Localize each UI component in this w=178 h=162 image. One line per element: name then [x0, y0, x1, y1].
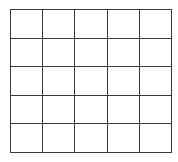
grid-cell [139, 123, 171, 152]
grid-cell [107, 123, 139, 152]
grid-cell [74, 9, 106, 38]
grid-cell [74, 66, 106, 95]
grid-cell [10, 66, 42, 95]
grid-cell [42, 38, 74, 67]
grid-cell [42, 9, 74, 38]
grid-cell [10, 95, 42, 124]
empty-grid [10, 9, 172, 153]
grid-cell [10, 38, 42, 67]
grid-cell [107, 66, 139, 95]
grid-cell [10, 123, 42, 152]
grid-cell [74, 95, 106, 124]
grid-cell [42, 123, 74, 152]
grid-cell [139, 95, 171, 124]
grid-cell [139, 66, 171, 95]
grid-cell [139, 38, 171, 67]
grid-cell [107, 95, 139, 124]
grid-cell [107, 38, 139, 67]
grid-cell [74, 123, 106, 152]
grid-cell [10, 9, 42, 38]
grid-cell [139, 9, 171, 38]
grid-cell [42, 66, 74, 95]
grid-cell [107, 9, 139, 38]
grid-cell [74, 38, 106, 67]
grid-cell [42, 95, 74, 124]
